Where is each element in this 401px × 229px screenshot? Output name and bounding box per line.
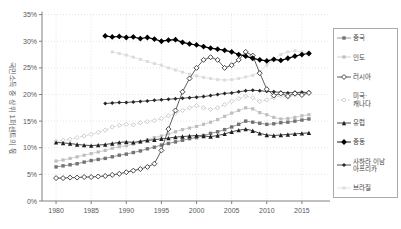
x-tick-label: 1990 [119, 207, 135, 214]
chart-container: 0%5%10%15%20%25%30%35%198019851990199520… [0, 0, 401, 229]
y-tick-label: 0% [27, 198, 37, 205]
legend-item: 유럽 [337, 119, 395, 127]
x-tick-label: 2015 [294, 207, 310, 214]
legend-marker-diamond-open-light-icon [337, 96, 351, 104]
legend-marker-square-icon [337, 53, 351, 61]
legend-item: 미국· 캐나다 [337, 92, 395, 107]
legend-marker-square-icon [337, 184, 351, 192]
x-tick-label: 1980 [48, 207, 64, 214]
legend-item: 사하라 이남 아프리카 [337, 158, 395, 173]
legend-label: 브라질 [353, 184, 371, 192]
y-tick-label: 25% [23, 64, 37, 71]
legend-label: 미국· 캐나다 [353, 92, 371, 107]
y-tick-label: 30% [23, 38, 37, 45]
legend-label: 중동 [353, 138, 365, 146]
x-tick-label: 1985 [83, 207, 99, 214]
y-tick-label: 20% [23, 91, 37, 98]
legend-marker-diamond-icon [337, 161, 351, 169]
legend-marker-diamond-open-icon [337, 73, 351, 81]
legend-label: 러시아 [353, 73, 371, 81]
legend-label: 사하라 이남 아프리카 [353, 158, 385, 173]
legend-marker-diamond-icon [337, 138, 351, 146]
x-tick-label: 2000 [189, 207, 205, 214]
legend-marker-triangle-icon [337, 119, 351, 127]
legend-marker-square-icon [337, 34, 351, 42]
y-tick-label: 15% [23, 118, 37, 125]
legend-label: 중국 [353, 34, 365, 42]
legend-item: 중동 [337, 138, 395, 146]
legend-item: 인도 [337, 53, 395, 61]
y-axis-label: 국민소득 중 상위 1퍼센트의 몫 [8, 28, 18, 188]
legend-item: 러시아 [337, 73, 395, 81]
legend: 중국인도러시아미국· 캐나다유럽중동사하라 이남 아프리카브라질 [333, 28, 398, 198]
y-tick-label: 5% [27, 171, 37, 178]
legend-label: 유럽 [353, 119, 365, 127]
x-tick-label: 2005 [224, 207, 240, 214]
x-tick-label: 2010 [259, 207, 275, 214]
legend-label: 인도 [353, 54, 365, 62]
y-tick-label: 35% [23, 11, 37, 18]
y-tick-label: 10% [23, 144, 37, 151]
x-tick-label: 1995 [154, 207, 170, 214]
legend-item: 브라질 [337, 184, 395, 192]
legend-item: 중국 [337, 34, 395, 42]
